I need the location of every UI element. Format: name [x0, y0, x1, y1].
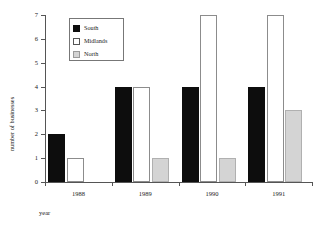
- y-tick-label-wrap: 1: [26, 154, 38, 162]
- x-tick-mark: [312, 182, 313, 186]
- y-tick-label: 2: [26, 130, 38, 137]
- y-tick-label-wrap: 3: [26, 106, 38, 114]
- filled-gray-square-icon: [73, 51, 80, 58]
- y-tick-label-wrap: 7: [26, 11, 38, 19]
- legend-label-midlands: Midlands: [84, 37, 107, 45]
- y-tick-label: 6: [26, 35, 38, 42]
- x-tick-label: 1990: [187, 190, 237, 198]
- legend-label-south: South: [84, 24, 98, 32]
- legend-item-north: North: [73, 48, 123, 60]
- y-tick-label: 7: [26, 11, 38, 18]
- y-tick-label: 4: [26, 83, 38, 90]
- bar-midlands-1990: [200, 15, 217, 182]
- x-tick-label: 1988: [53, 190, 103, 198]
- outlined-white-square-icon: [73, 38, 80, 45]
- bar-north-1991: [285, 110, 302, 182]
- bar-south-1988: [48, 134, 65, 182]
- x-tick-label: 1989: [120, 190, 170, 198]
- x-tick-mark: [179, 182, 180, 186]
- x-tick-mark: [112, 182, 113, 186]
- y-tick-label-wrap: 4: [26, 83, 38, 91]
- y-tick-label-wrap: 0: [26, 178, 38, 186]
- bar-midlands-1991: [267, 15, 284, 182]
- legend-item-midlands: Midlands: [73, 35, 123, 47]
- legend-item-south: South: [73, 22, 123, 34]
- bar-midlands-1989: [133, 87, 150, 182]
- y-tick-label-wrap: 6: [26, 35, 38, 43]
- y-tick-label-wrap: 2: [26, 130, 38, 138]
- y-tick-label: 0: [26, 178, 38, 185]
- y-tick-label-wrap: 5: [26, 59, 38, 67]
- y-tick-label: 3: [26, 106, 38, 113]
- legend-label-north: North: [84, 50, 98, 58]
- x-tick-label: 1991: [254, 190, 304, 198]
- y-tick-label: 5: [26, 59, 38, 66]
- x-tick-mark: [45, 182, 46, 186]
- y-tick-label: 1: [26, 154, 38, 161]
- legend: South Midlands North: [69, 18, 124, 61]
- x-axis-title: year: [39, 209, 50, 217]
- bar-midlands-1988: [67, 158, 84, 182]
- bar-south-1991: [248, 87, 265, 182]
- filled-black-square-icon: [73, 25, 80, 32]
- bar-north-1989: [152, 158, 169, 182]
- y-axis-title: number of businesses: [8, 74, 16, 174]
- bar-north-1990: [219, 158, 236, 182]
- bar-south-1989: [115, 87, 132, 182]
- bar-south-1990: [182, 87, 199, 182]
- bar-chart: 01234567 1988198919901991 South Midlands…: [0, 0, 324, 228]
- x-tick-mark: [245, 182, 246, 186]
